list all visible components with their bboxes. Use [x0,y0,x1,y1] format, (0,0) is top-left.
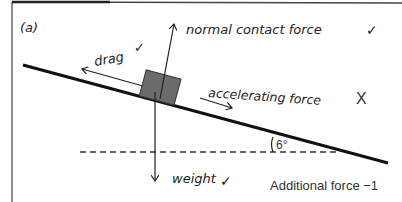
normal-force-label: normal contact force [186,22,322,37]
slope-line [23,65,388,163]
accelerating-mark: X [356,90,367,107]
drag-label: drag [93,49,125,69]
drag-mark: ✓ [134,40,145,55]
accelerating-label: accelerating force [208,85,322,108]
angle-arc [272,137,274,152]
free-body-diagram: (a) 6° drag ✓ accelerating force X norma… [0,0,402,202]
normal-force-mark: ✓ [366,22,378,38]
block [139,70,181,105]
score-note: Additional force −1 [270,178,378,193]
weight-mark: ✓ [220,173,232,189]
drag-arrow [82,69,150,88]
weight-label: weight [172,171,217,186]
angle-label: 6° [276,138,288,152]
panel-label: (a) [20,20,38,35]
